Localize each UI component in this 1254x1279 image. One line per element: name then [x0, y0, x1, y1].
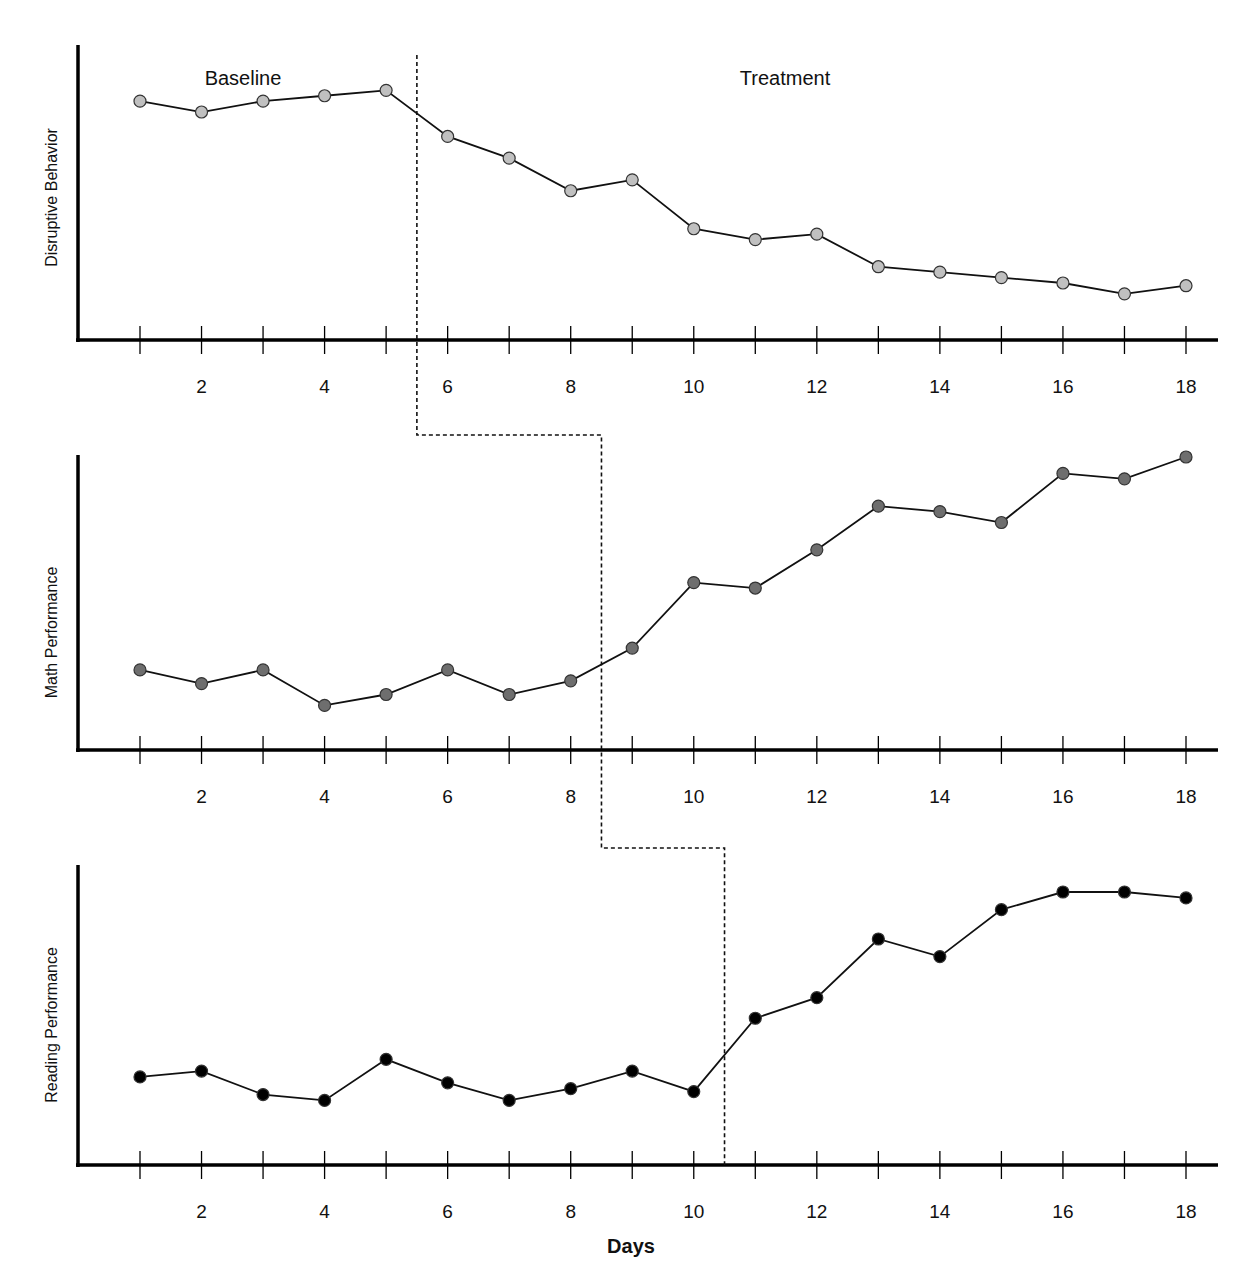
data-point: [196, 1065, 208, 1077]
x-tick-label: 8: [565, 1201, 576, 1222]
data-point: [1057, 886, 1069, 898]
y-axis-label: Math Performance: [43, 567, 60, 699]
data-point: [257, 1089, 269, 1101]
data-point: [442, 130, 454, 142]
data-point: [811, 544, 823, 556]
phase-change-line: [417, 55, 725, 1165]
data-point: [565, 675, 577, 687]
x-tick-label: 6: [442, 786, 453, 807]
phase-label-treatment: Treatment: [740, 67, 831, 89]
x-tick-label: 8: [565, 376, 576, 397]
x-tick-label: 10: [683, 1201, 704, 1222]
data-point: [134, 664, 146, 676]
data-point: [872, 261, 884, 273]
data-point: [503, 152, 515, 164]
data-line: [140, 892, 1186, 1100]
x-tick-label: 16: [1052, 376, 1073, 397]
x-tick-label: 2: [196, 376, 207, 397]
x-tick-label: 10: [683, 376, 704, 397]
data-point: [257, 95, 269, 107]
data-point: [934, 951, 946, 963]
data-point: [1118, 288, 1130, 300]
data-point: [626, 1065, 638, 1077]
data-point: [995, 272, 1007, 284]
x-tick-label: 12: [806, 786, 827, 807]
data-point: [442, 664, 454, 676]
data-point: [1180, 451, 1192, 463]
x-tick-label: 12: [806, 1201, 827, 1222]
data-point: [811, 228, 823, 240]
data-point: [196, 678, 208, 690]
x-tick-label: 12: [806, 376, 827, 397]
x-tick-label: 14: [929, 1201, 951, 1222]
x-tick-label: 4: [319, 376, 330, 397]
data-point: [749, 234, 761, 246]
data-point: [442, 1077, 454, 1089]
phase-label-baseline: Baseline: [205, 67, 282, 89]
x-tick-label: 4: [319, 786, 330, 807]
x-tick-label: 18: [1175, 376, 1196, 397]
multiple-baseline-chart: 24681012141618Disruptive Behavior2468101…: [0, 0, 1254, 1279]
x-tick-label: 18: [1175, 786, 1196, 807]
x-tick-label: 2: [196, 786, 207, 807]
data-point: [749, 582, 761, 594]
data-point: [872, 933, 884, 945]
data-line: [140, 90, 1186, 294]
data-point: [626, 174, 638, 186]
data-point: [1118, 473, 1130, 485]
x-tick-label: 10: [683, 786, 704, 807]
data-point: [319, 1094, 331, 1106]
x-tick-label: 2: [196, 1201, 207, 1222]
data-point: [749, 1012, 761, 1024]
data-point: [1057, 277, 1069, 289]
data-point: [934, 506, 946, 518]
x-tick-label: 6: [442, 376, 453, 397]
x-tick-label: 6: [442, 1201, 453, 1222]
data-point: [995, 904, 1007, 916]
x-tick-label: 8: [565, 786, 576, 807]
data-point: [503, 689, 515, 701]
data-point: [872, 500, 884, 512]
data-point: [626, 642, 638, 654]
x-tick-label: 16: [1052, 1201, 1073, 1222]
y-axis-label: Reading Performance: [43, 947, 60, 1103]
data-point: [1057, 467, 1069, 479]
x-tick-label: 16: [1052, 786, 1073, 807]
data-point: [196, 106, 208, 118]
data-point: [688, 1086, 700, 1098]
data-point: [503, 1094, 515, 1106]
data-point: [1118, 886, 1130, 898]
data-point: [1180, 280, 1192, 292]
data-point: [688, 223, 700, 235]
x-tick-label: 4: [319, 1201, 330, 1222]
data-point: [380, 1053, 392, 1065]
data-point: [565, 185, 577, 197]
data-point: [319, 90, 331, 102]
data-point: [688, 577, 700, 589]
data-point: [134, 95, 146, 107]
data-line: [140, 457, 1186, 705]
data-point: [1180, 892, 1192, 904]
data-point: [995, 517, 1007, 529]
data-point: [811, 992, 823, 1004]
data-point: [380, 689, 392, 701]
data-point: [934, 266, 946, 278]
x-tick-label: 14: [929, 786, 951, 807]
data-point: [565, 1083, 577, 1095]
data-point: [380, 84, 392, 96]
x-tick-label: 14: [929, 376, 951, 397]
data-point: [257, 664, 269, 676]
data-point: [319, 699, 331, 711]
x-tick-label: 18: [1175, 1201, 1196, 1222]
data-point: [134, 1071, 146, 1083]
y-axis-label: Disruptive Behavior: [43, 127, 60, 266]
x-axis-title: Days: [607, 1235, 655, 1257]
